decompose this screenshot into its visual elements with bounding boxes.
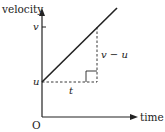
right-angle-marker xyxy=(86,71,97,82)
v-label: v xyxy=(33,21,39,32)
x-axis-label: time xyxy=(140,111,164,123)
velocity-time-diagram: velocity v u t v − u O time xyxy=(0,0,165,132)
u-label: u xyxy=(33,76,39,87)
t-label: t xyxy=(69,85,74,96)
y-axis-label: velocity xyxy=(1,3,43,15)
x-axis-arrow-icon xyxy=(130,114,138,120)
v-minus-u-label: v − u xyxy=(101,49,128,60)
velocity-line xyxy=(42,8,117,82)
origin-label: O xyxy=(32,119,41,131)
